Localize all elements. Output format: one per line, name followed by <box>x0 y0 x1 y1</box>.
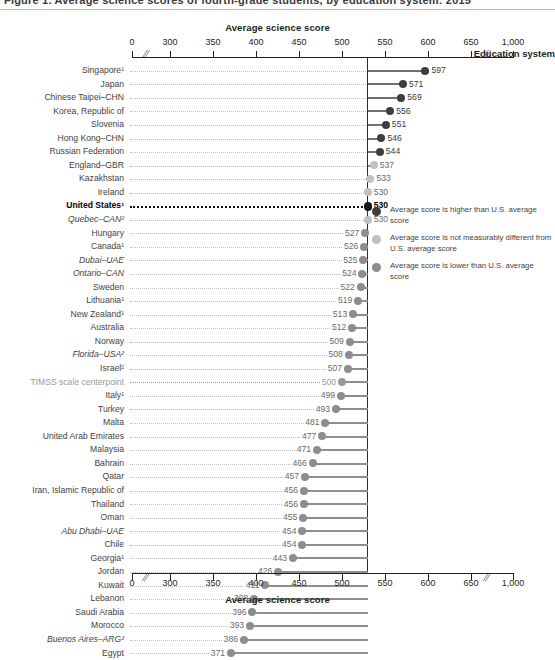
chart-row: Australia512 <box>0 321 555 335</box>
axis-tick-label: 500 <box>334 578 349 588</box>
axis-tick-labels-bottom: 03003504004505005506006501,000 <box>0 578 555 591</box>
legend-item: Average score is higher than U.S. averag… <box>372 205 552 226</box>
row-label: Hungary <box>0 227 124 241</box>
row-leader-line <box>130 247 342 248</box>
row-label: TIMSS scale centerpoint <box>0 376 124 390</box>
score-value: 454 <box>274 525 296 539</box>
score-value: 386 <box>216 633 238 647</box>
score-dot <box>248 608 256 616</box>
row-stem <box>302 530 367 532</box>
score-value: 456 <box>276 498 298 512</box>
axis-tick-label: 600 <box>420 37 435 47</box>
row-leader-line <box>130 206 366 208</box>
score-dot <box>376 148 384 156</box>
row-label: United Arab Emirates <box>0 430 124 444</box>
row-leader-line <box>130 288 339 289</box>
row-stem <box>250 625 368 627</box>
row-leader-line <box>130 342 328 343</box>
row-leader-line <box>130 626 228 627</box>
score-value: 457 <box>277 470 299 484</box>
chart-row: Turkey493 <box>0 403 555 417</box>
chart-row: Malaysia471 <box>0 443 555 457</box>
score-value: 556 <box>396 105 410 119</box>
row-label: Buenos Aires–ARG² <box>0 633 124 647</box>
row-stem <box>326 422 368 424</box>
score-value: 493 <box>308 403 330 417</box>
row-label: Chile <box>0 538 124 552</box>
row-label: Malta <box>0 416 124 430</box>
score-value: 426 <box>250 565 272 579</box>
axis-tick-label: 0 <box>129 578 134 588</box>
axis-tick-label: 450 <box>291 37 306 47</box>
score-dot <box>300 500 308 508</box>
axis-tick-label: 550 <box>377 578 392 588</box>
score-dot <box>240 636 248 644</box>
row-label: Malaysia <box>0 443 124 457</box>
header-divider <box>0 9 555 10</box>
axis-tick-label: 600 <box>420 578 435 588</box>
row-leader-line <box>130 450 295 451</box>
row-leader-line <box>130 328 330 329</box>
chart-row: Lithuania¹519 <box>0 294 555 308</box>
score-dot <box>397 94 405 102</box>
score-dot <box>246 622 254 630</box>
axis-tick-label: 300 <box>162 578 177 588</box>
chart-row: Iran, Islamic Republic of456 <box>0 484 555 498</box>
row-label: Kazakhstan <box>0 172 124 186</box>
score-value: 466 <box>285 457 307 471</box>
row-leader-line <box>130 179 366 180</box>
score-value: 471 <box>289 443 311 457</box>
row-label: Georgia¹ <box>0 552 124 566</box>
data-rows: Singapore¹597Japan571Chinese Taipei–CHN5… <box>0 64 555 660</box>
score-value: 569 <box>407 91 421 105</box>
row-stem <box>336 408 368 410</box>
chart-row: Morocco393 <box>0 619 555 633</box>
row-label: Bahrain <box>0 457 124 471</box>
chart-row: Qatar457 <box>0 470 555 484</box>
row-leader-line <box>130 71 366 72</box>
row-leader-line <box>130 260 342 261</box>
row-leader-line <box>130 233 343 234</box>
row-stem <box>341 395 368 397</box>
score-value: 526 <box>336 240 358 254</box>
axis-tick-label: 400 <box>248 578 263 588</box>
chart-row: Bahrain466 <box>0 457 555 471</box>
row-stem <box>304 490 368 492</box>
row-label: Ontario–CAN <box>0 267 124 281</box>
score-dot <box>370 161 378 169</box>
row-header: Education system <box>0 48 555 62</box>
row-leader-line <box>130 640 222 641</box>
score-dot <box>364 202 373 211</box>
row-leader-line <box>130 220 366 221</box>
score-dot <box>332 405 340 413</box>
score-dot <box>338 378 346 386</box>
score-dot <box>386 107 394 115</box>
score-value: 544 <box>386 145 400 159</box>
chart-row: New Zealand¹513 <box>0 308 555 322</box>
score-dot <box>321 419 329 427</box>
row-label: Thailand <box>0 498 124 512</box>
chart-row: Hong Kong–CHN546 <box>0 132 555 146</box>
score-value: 519 <box>330 294 352 308</box>
row-leader-line <box>130 382 320 383</box>
score-dot <box>357 283 365 291</box>
score-dot <box>298 541 306 549</box>
chart-row: Japan571 <box>0 78 555 92</box>
chart-row: Chinese Taipei–CHN569 <box>0 91 555 105</box>
score-value: 546 <box>388 132 402 146</box>
score-dot <box>361 229 369 237</box>
row-stem <box>303 517 368 519</box>
row-label: Sweden <box>0 281 124 295</box>
row-label: Korea, Republic of <box>0 105 124 119</box>
score-dot <box>358 270 366 278</box>
axis-line-bottom <box>132 573 513 574</box>
row-stem <box>317 449 368 451</box>
axis-tick-label: 400 <box>248 37 263 47</box>
row-leader-line <box>130 504 282 505</box>
score-value: 527 <box>337 227 359 241</box>
score-value: 371 <box>203 647 225 660</box>
score-value: 507 <box>320 362 342 376</box>
row-label: Saudi Arabia <box>0 606 124 620</box>
score-dot <box>318 432 326 440</box>
